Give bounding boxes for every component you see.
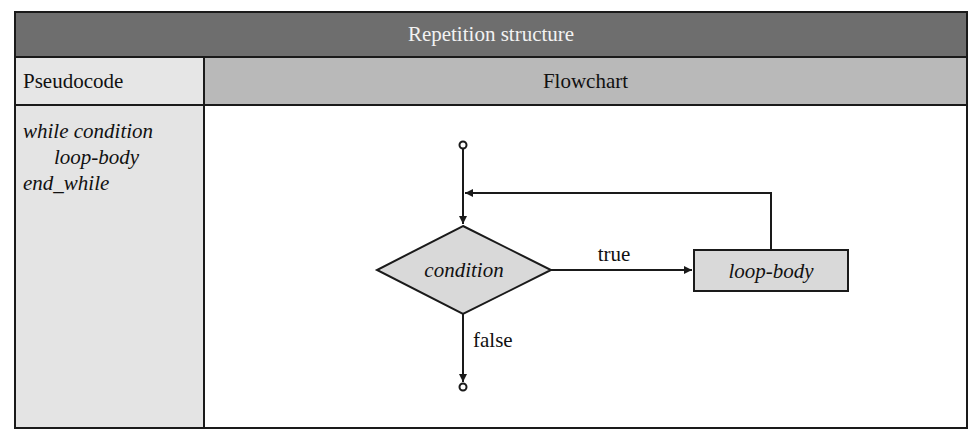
pseudocode-cell: while condition loop-body end_while xyxy=(16,106,205,427)
repetition-structure-table: Repetition structure Pseudocode Flowchar… xyxy=(14,11,968,429)
false-label: false xyxy=(473,328,513,352)
column-header-pseudocode: Pseudocode xyxy=(16,58,205,104)
column-headers: Pseudocode Flowchart xyxy=(16,58,966,106)
flowchart-cell: condition true loop-body false xyxy=(205,106,966,427)
pseudocode-line-end: end_while xyxy=(23,170,203,196)
decision-label: condition xyxy=(424,258,503,282)
end-connector-icon xyxy=(460,384,467,391)
pseudocode-line-body: loop-body xyxy=(23,144,203,170)
flowchart-diagram: condition true loop-body false xyxy=(205,106,966,427)
start-connector-icon xyxy=(460,142,467,149)
table-body-row: while condition loop-body end_while cond… xyxy=(16,106,966,427)
pseudocode-line-while: while condition xyxy=(23,118,203,144)
column-header-flowchart: Flowchart xyxy=(205,58,966,104)
true-label: true xyxy=(598,242,631,266)
loop-body-label: loop-body xyxy=(728,259,814,283)
table-title: Repetition structure xyxy=(16,13,966,58)
